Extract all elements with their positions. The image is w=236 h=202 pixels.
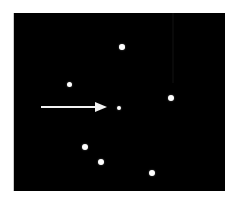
stimulus-panel [14, 13, 225, 191]
compression-band [172, 13, 174, 83]
dot-top [119, 44, 125, 50]
dot-center [117, 106, 122, 111]
dot-upper-left [67, 82, 72, 87]
dot-right [168, 95, 174, 101]
direction-arrow-head [95, 102, 107, 112]
dot-lower-left [82, 144, 88, 150]
figure-canvas [0, 0, 236, 202]
dot-lower-mid [98, 159, 104, 165]
dot-bottom-right [149, 170, 155, 176]
direction-arrow-shaft [41, 106, 96, 108]
